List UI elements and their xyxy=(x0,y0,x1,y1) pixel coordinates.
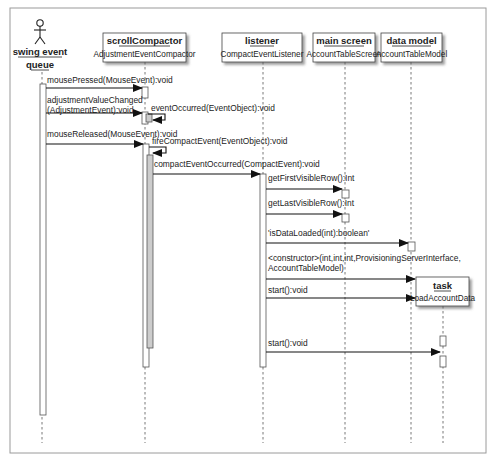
activation-bar xyxy=(40,84,46,415)
message-adjustment-value-changed: adjustmentValueChanged (AdjustmentEvent)… xyxy=(46,95,143,115)
activation-bar xyxy=(142,87,148,98)
svg-text:adjustmentValueChanged: adjustmentValueChanged xyxy=(47,95,143,105)
svg-text:start():void: start():void xyxy=(268,338,308,348)
participant-name: listener xyxy=(245,35,279,46)
svg-text:start():void: start():void xyxy=(268,285,308,295)
svg-text:'isDataLoaded(int):boolean': 'isDataLoaded(int):boolean' xyxy=(268,228,370,238)
activation-bar-nested xyxy=(147,155,153,348)
participant-name: queue xyxy=(26,59,54,70)
svg-text:mousePressed(MouseEvent):void: mousePressed(MouseEvent):void xyxy=(47,75,173,85)
activation-bar xyxy=(260,174,266,367)
participant-name: scrollCompactor xyxy=(107,35,183,46)
participant-name: data model xyxy=(386,35,436,46)
participant-name: swing event xyxy=(13,46,68,57)
svg-text:fireCompactEvent(EventObject):: fireCompactEvent(EventObject):void xyxy=(152,136,288,146)
svg-text:AccountTableModel): AccountTableModel) xyxy=(268,263,344,273)
activation-bar xyxy=(342,190,349,198)
svg-text:<constructor>(int,int,int,Prov: <constructor>(int,int,int,ProvisioningSe… xyxy=(268,253,461,263)
participant-class: CompactEventListener xyxy=(221,50,304,59)
svg-text:compactEventOccurred(CompactEv: compactEventOccurred(CompactEvent):void xyxy=(154,159,320,169)
svg-text:getFirstVisibleRow():Int: getFirstVisibleRow():Int xyxy=(268,173,355,183)
participant-class: AccountTableModel xyxy=(376,50,448,59)
svg-text:getLastVisibleRow():Int: getLastVisibleRow():Int xyxy=(268,198,355,208)
participant-class: LoadAccountData xyxy=(410,294,476,303)
participant-class: AdjustmentEventCompactor xyxy=(94,50,196,59)
participant-name: task xyxy=(433,280,453,291)
activation-bar xyxy=(408,242,415,251)
activation-bar xyxy=(342,214,349,222)
activation-bar xyxy=(440,356,446,367)
activation-bar xyxy=(440,336,446,346)
svg-text:eventOccurred(EventObject):voi: eventOccurred(EventObject):void xyxy=(151,103,275,113)
sequence-diagram: swing event queue scrollCompactor Adjust… xyxy=(0,0,498,458)
participant-class: AccountTableScreen xyxy=(306,50,382,59)
activation-bar-nested xyxy=(146,114,152,122)
participant-name: main screen xyxy=(316,35,372,46)
